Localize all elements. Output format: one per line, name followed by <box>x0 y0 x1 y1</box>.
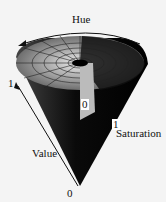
saturation-label: Saturation <box>116 128 161 139</box>
hue-label: Hue <box>72 14 90 25</box>
value-min-label: 0 <box>67 188 73 199</box>
cone-cutout-wedge <box>80 63 95 120</box>
value-max-label: 1 <box>8 78 14 89</box>
value-label: Value <box>32 148 57 159</box>
saturation-min-label: 0 <box>81 99 89 110</box>
